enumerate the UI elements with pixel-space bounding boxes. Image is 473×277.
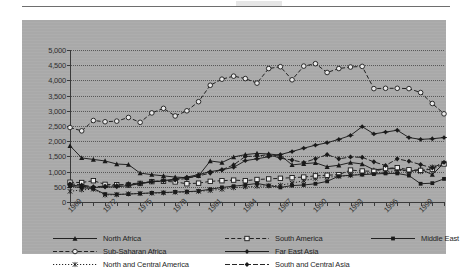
- y-tick-label: 500: [54, 182, 66, 191]
- y-tick-label: 1,000: [48, 167, 66, 176]
- top-horizontal-rule: [22, 6, 450, 7]
- x-tick-mark: [269, 202, 270, 206]
- legend-item[interactable]: North and Central America: [52, 258, 189, 271]
- line-key-north-and-central-america-icon: [52, 259, 98, 270]
- legend-label: South and Central Asia: [275, 260, 350, 269]
- legend-label: Far East Asia: [275, 247, 318, 256]
- line-key-north-africa-icon: [52, 233, 98, 244]
- line-key-middle-east-icon: [370, 233, 416, 244]
- x-tick-mark: [339, 202, 340, 206]
- chart-page: 05001,0001,5002,0002,5003,0003,5004,0004…: [0, 0, 473, 277]
- plot-area: 05001,0001,5002,0002,5003,0003,5004,0004…: [70, 50, 444, 202]
- legend-column: North AfricaSub-Saharan AfricaNorth and …: [52, 232, 189, 271]
- line-key-sub-saharan-africa-icon: [52, 246, 98, 257]
- x-tick-mark: [164, 202, 165, 206]
- legend-label: North and Central America: [103, 260, 189, 269]
- legend-label: North Africa: [103, 234, 141, 243]
- series-sub-saharan-africa: [68, 61, 447, 133]
- legend-item[interactable]: North Africa: [52, 232, 189, 245]
- series-lines: [70, 50, 444, 202]
- scan-artifact: [236, 1, 282, 6]
- legend-label: South America: [275, 234, 322, 243]
- legend-item[interactable]: Far East Asia: [224, 245, 350, 258]
- y-tick-label: 2,500: [48, 122, 66, 131]
- legend-item[interactable]: South America: [224, 232, 350, 245]
- y-tick-label: 4,500: [48, 61, 66, 70]
- x-tick-mark: [128, 202, 129, 206]
- y-tick-label: 1,500: [48, 152, 66, 161]
- figure-panel: 05001,0001,5002,0002,5003,0003,5004,0004…: [22, 20, 446, 254]
- legend-label: Middle East: [421, 234, 459, 243]
- y-tick-label: 5,000: [48, 46, 66, 55]
- x-tick-mark: [234, 202, 235, 206]
- legend-column: South AmericaFar East AsiaSouth and Cent…: [224, 232, 350, 271]
- x-tick-mark: [304, 202, 305, 206]
- x-tick-mark: [374, 202, 375, 206]
- y-tick-label: 2,000: [48, 137, 66, 146]
- series-middle-east: [68, 172, 446, 197]
- legend-item[interactable]: South and Central Asia: [224, 258, 350, 271]
- legend-item[interactable]: Sub-Saharan Africa: [52, 245, 189, 258]
- legend-column: Middle East: [370, 232, 459, 245]
- y-tick-label: 3,000: [48, 106, 66, 115]
- line-key-south-america-icon: [224, 233, 270, 244]
- x-tick-mark: [409, 202, 410, 206]
- line-key-far-east-asia-icon: [224, 246, 270, 257]
- line-key-south-and-central-asia-icon: [224, 259, 270, 270]
- y-tick-label: 0: [62, 198, 66, 207]
- legend-label: Sub-Saharan Africa: [103, 247, 166, 256]
- y-tick-label: 4,000: [48, 76, 66, 85]
- legend-item[interactable]: Middle East: [370, 232, 459, 245]
- series-north-africa: [68, 143, 447, 180]
- x-tick-mark: [444, 202, 445, 206]
- y-tick-label: 3,500: [48, 91, 66, 100]
- x-tick-mark: [199, 202, 200, 206]
- x-tick-mark: [93, 202, 94, 206]
